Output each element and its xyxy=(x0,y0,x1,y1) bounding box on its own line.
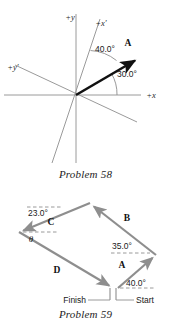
angle-label-40: 40.0° xyxy=(95,44,115,54)
vector-label-c: C xyxy=(48,217,55,227)
axis-label-plus-x-prime: +x′ xyxy=(95,18,107,28)
start-label: Start xyxy=(136,295,155,305)
axis-label-plus-x: +x xyxy=(146,90,156,100)
angle-label-23: 23.0° xyxy=(28,208,48,218)
angle-label-30: 30.0° xyxy=(117,69,137,79)
caption-problem-58: Problem 58 xyxy=(0,168,171,180)
vector-label-a: A xyxy=(125,38,132,48)
axis-label-plus-y: +y xyxy=(65,12,75,22)
finish-label: Finish xyxy=(63,295,86,305)
caption-problem-59: Problem 59 xyxy=(0,308,171,320)
figure-problem-59: A B C D 23.0° 35.0° 40.0° θ Finish Start xyxy=(0,185,171,326)
vector-label-d: D xyxy=(54,265,61,275)
angle-label-35: 35.0° xyxy=(112,241,132,251)
problem-figures-page: +y +x′ +y′ +x 40.0° 30.0° A Problem 58 xyxy=(0,0,171,326)
angle-label-40: 40.0° xyxy=(126,278,146,288)
axis-label-plus-y-prime: +y′ xyxy=(7,62,19,72)
figure-58-canvas: +y +x′ +y′ +x 40.0° 30.0° A xyxy=(0,0,171,166)
figure-59-canvas: A B C D 23.0° 35.0° 40.0° θ Finish Start xyxy=(0,185,171,326)
angle-label-theta: θ xyxy=(29,234,34,244)
vector-label-b: B xyxy=(124,213,131,223)
vector-label-a: A xyxy=(119,260,126,270)
figure-problem-58: +y +x′ +y′ +x 40.0° 30.0° A xyxy=(0,0,171,166)
